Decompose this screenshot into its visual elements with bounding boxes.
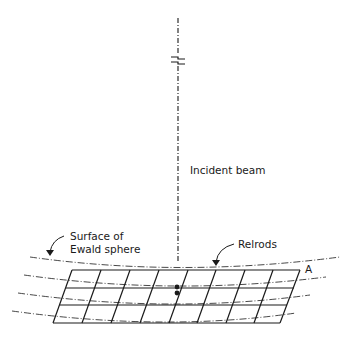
relrod-grid — [53, 270, 300, 323]
ewald-sphere-diagram — [0, 0, 354, 342]
ewald-sphere-label-line1: Surface of — [70, 230, 123, 243]
relrods-label: Relrods — [238, 238, 277, 251]
incident-beam-label: Incident beam — [190, 164, 265, 177]
ewald-pointer-arrow — [50, 236, 64, 252]
origin-dot — [175, 291, 180, 296]
relrods-pointer-arrow — [216, 244, 234, 262]
beam-break-symbol — [171, 57, 185, 64]
point-a-label: A — [305, 263, 312, 276]
origin-dot — [175, 285, 180, 290]
ewald-sphere-label-line2: Ewald sphere — [70, 243, 140, 256]
ewald-sphere-surfaces — [12, 257, 340, 322]
